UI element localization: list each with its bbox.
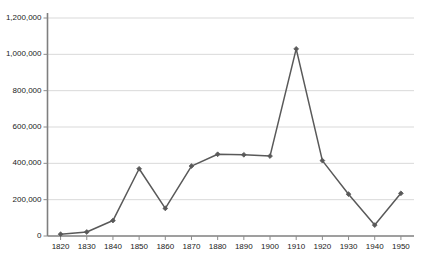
data-point-marker: [215, 152, 220, 157]
y-axis-tick-label: 400,000: [0, 158, 42, 167]
chart-plot-area: [0, 0, 422, 262]
y-axis-tick-label: 800,000: [0, 86, 42, 95]
data-point-marker: [84, 230, 89, 235]
data-point-marker: [268, 154, 273, 159]
data-series-line: [61, 49, 401, 234]
page-edge-artifact: [5, 252, 41, 260]
data-point-marker: [294, 46, 299, 51]
y-axis-tick-label: 1,200,000: [0, 13, 42, 22]
series-line: [61, 49, 401, 234]
y-axis-tick-label: 600,000: [0, 122, 42, 131]
y-axis-tick-label: 0: [0, 231, 42, 240]
data-point-marker: [241, 152, 246, 157]
y-axis-tick-label: 200,000: [0, 195, 42, 204]
y-axis-tick-label: 1,000,000: [0, 49, 42, 58]
gridlines: [48, 18, 415, 200]
line-chart: 0200,000400,000600,000800,0001,000,0001,…: [0, 0, 422, 262]
x-axis-tick-label: 1950: [386, 242, 416, 251]
data-point-markers: [58, 46, 403, 236]
